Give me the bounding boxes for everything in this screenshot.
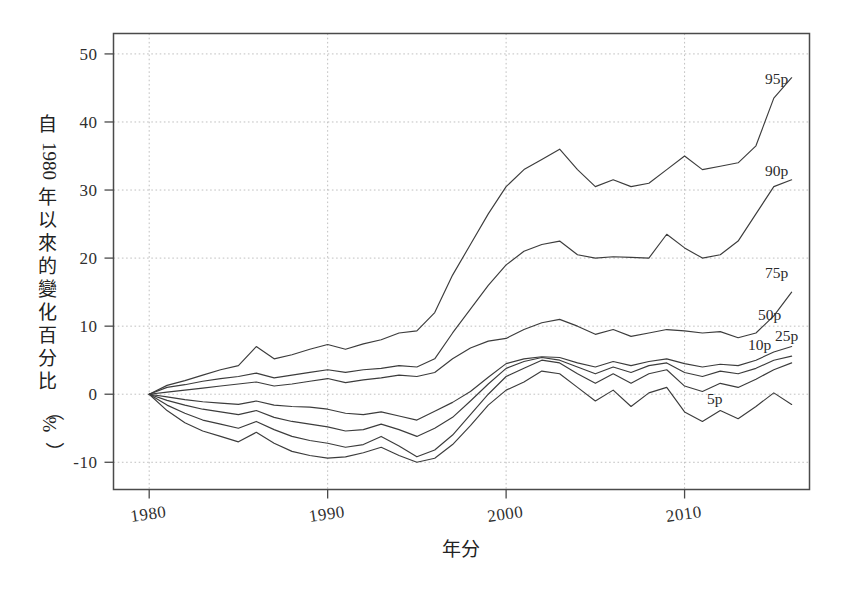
line-chart: -1001020304050 1980199020002010 95p90p75… bbox=[0, 0, 844, 599]
series-label-95p: 95p bbox=[765, 70, 789, 87]
y-axis-title-char: 化 bbox=[38, 302, 57, 323]
y-axis-title-char: 來 bbox=[38, 233, 57, 254]
y-axis-title-char: 百 bbox=[38, 325, 57, 346]
y-tick-label: -10 bbox=[73, 453, 97, 472]
series-label-50p: 50p bbox=[758, 306, 782, 323]
x-axis-title: 年分 bbox=[442, 539, 480, 560]
y-tick-label: 30 bbox=[80, 181, 98, 200]
y-axis-title-char: 年 bbox=[38, 187, 57, 208]
y-tick-label: 0 bbox=[89, 385, 98, 404]
series-label-10p: 10p bbox=[748, 336, 772, 353]
y-axis-title-char: 分 bbox=[38, 348, 57, 369]
series-label-90p: 90p bbox=[765, 162, 789, 179]
y-axis-title-char: 變 bbox=[38, 279, 57, 300]
y-tick-label: 20 bbox=[80, 249, 98, 268]
y-axis-title-char: 自 bbox=[38, 114, 57, 135]
y-axis-title-char: ） bbox=[43, 442, 64, 461]
y-axis-title-run: 1980 bbox=[39, 142, 60, 180]
chart-figure: -1001020304050 1980199020002010 95p90p75… bbox=[0, 0, 844, 599]
chart-background bbox=[0, 0, 844, 599]
y-tick-label: 10 bbox=[80, 317, 98, 336]
series-label-25p: 25p bbox=[775, 327, 799, 344]
series-label-75p: 75p bbox=[765, 264, 789, 281]
y-axis-title-run: % bbox=[39, 417, 60, 433]
y-axis-title-char: 以 bbox=[38, 210, 57, 231]
y-axis-title-char: 的 bbox=[38, 256, 57, 277]
y-axis-title-char: 比 bbox=[38, 371, 57, 392]
series-label-5p: 5p bbox=[707, 390, 723, 407]
y-tick-label: 50 bbox=[80, 45, 98, 64]
y-tick-label: 40 bbox=[80, 113, 98, 132]
